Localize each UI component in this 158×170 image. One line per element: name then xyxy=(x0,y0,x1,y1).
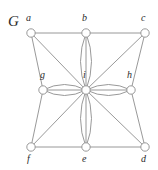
vertex-label-g: g xyxy=(40,70,45,80)
edge-c-i xyxy=(86,33,145,90)
vertex-i[interactable] xyxy=(82,86,90,94)
vertex-label-b: b xyxy=(82,13,87,23)
vertex-f[interactable] xyxy=(27,143,35,151)
vertex-label-h: h xyxy=(127,70,132,80)
vertex-label-e: e xyxy=(82,154,86,164)
edge-h-d xyxy=(131,90,145,147)
vertex-h[interactable] xyxy=(127,86,135,94)
vertex-e[interactable] xyxy=(82,143,90,151)
vertex-c[interactable] xyxy=(141,29,149,37)
multi-edge-h-i-2 xyxy=(86,90,131,96)
vertex-label-f: f xyxy=(27,154,30,164)
vertex-g[interactable] xyxy=(39,86,47,94)
multi-edge-e-i-2 xyxy=(81,90,87,147)
edge-f-g xyxy=(31,90,43,147)
edge-g-a xyxy=(31,33,43,90)
multi-edge-g-i-1 xyxy=(43,90,86,96)
vertex-b[interactable] xyxy=(82,29,90,37)
multi-edge-b-i-2 xyxy=(86,33,92,90)
edge-a-i xyxy=(31,33,86,90)
edge-c-h xyxy=(131,33,145,90)
vertex-label-i: i xyxy=(83,70,86,80)
vertex-a[interactable] xyxy=(27,29,35,37)
vertex-label-a: a xyxy=(26,13,31,23)
graph-figure: G abcdefghi xyxy=(0,0,158,170)
edge-f-i xyxy=(31,90,86,147)
vertex-d[interactable] xyxy=(141,143,149,151)
multi-edge-g-i-2 xyxy=(43,85,86,91)
vertex-label-c: c xyxy=(141,13,145,23)
graph-name-label: G xyxy=(8,14,19,29)
multi-edge-e-i-1 xyxy=(86,90,92,147)
vertex-label-d: d xyxy=(141,154,146,164)
graph-drawing xyxy=(0,0,158,170)
multi-edge-h-i-1 xyxy=(86,85,131,91)
edge-d-i xyxy=(86,90,145,147)
multi-edge-b-i-1 xyxy=(81,33,87,90)
